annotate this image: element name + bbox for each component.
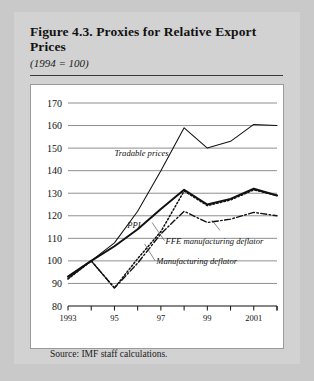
page-background: Figure 4.3. Proxies for Relative Export …: [0, 0, 314, 381]
series-annotation: FFE manufacturing deflator: [165, 236, 265, 246]
svg-text:100: 100: [47, 255, 62, 266]
svg-text:170: 170: [47, 98, 62, 109]
svg-text:97: 97: [157, 313, 166, 323]
svg-text:95: 95: [110, 313, 119, 323]
svg-text:2001: 2001: [245, 313, 262, 323]
svg-text:130: 130: [47, 188, 62, 199]
figure-panel: Figure 4.3. Proxies for Relative Export …: [14, 12, 300, 364]
svg-text:80: 80: [52, 301, 62, 312]
source-note: Source: IMF staff calculations.: [50, 349, 168, 359]
svg-text:110: 110: [47, 233, 62, 244]
svg-text:150: 150: [47, 143, 62, 154]
svg-text:140: 140: [47, 165, 62, 176]
series-annotation: PPI: [126, 220, 141, 230]
series-annotation: Manufacturing deflator: [155, 256, 238, 266]
svg-text:90: 90: [52, 278, 62, 289]
svg-text:120: 120: [47, 210, 62, 221]
svg-text:160: 160: [47, 120, 62, 131]
chart-container: 8090100110120130140150160170199395979920…: [30, 84, 284, 349]
title-divider: [30, 75, 283, 76]
svg-text:1993: 1993: [60, 313, 77, 323]
figure-title: Figure 4.3. Proxies for Relative Export …: [30, 24, 282, 54]
figure-subtitle: (1994 = 100): [30, 57, 89, 69]
series-annotation: Tradable prices: [114, 148, 169, 158]
svg-text:99: 99: [203, 313, 212, 323]
line-chart: 8090100110120130140150160170199395979920…: [31, 85, 283, 348]
